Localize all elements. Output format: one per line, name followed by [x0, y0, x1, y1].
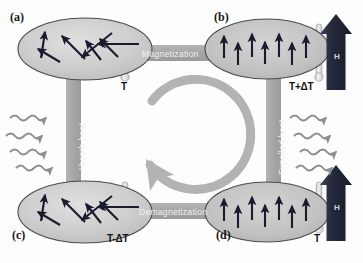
band-label-expelled-heat: Expelled heat [277, 120, 287, 175]
diagram-svg [0, 0, 363, 263]
heat-wave-absorb-group [6, 116, 52, 171]
heat-wave-expelled-group [290, 116, 336, 171]
temperature-label-panel-b: T+ΔT [289, 81, 313, 92]
band-label-magnetization: Magnetization [142, 49, 199, 59]
panel-d-label: (d) [216, 228, 231, 243]
panel-b-label: (b) [214, 10, 229, 25]
band-label-demagnetization: Demagnetization [139, 207, 207, 217]
field-label-panel-b: H [334, 52, 340, 61]
field-label-panel-d: H [334, 203, 340, 212]
figure-canvas: (a) (b) (c) (d) T T+ΔT T-ΔT T Magnetizat… [0, 0, 363, 263]
panel-a-label: (a) [10, 10, 24, 25]
clockwise-cycle-arrow [150, 79, 251, 189]
cycle-arrow-group [150, 79, 251, 189]
panel-c-label: (c) [12, 228, 25, 243]
band-label-absorb-heat: Absorb heat [77, 123, 87, 172]
temperature-label-panel-a: T [121, 81, 127, 92]
temperature-label-panel-d: T [314, 233, 320, 244]
temperature-label-panel-c: T-ΔT [107, 233, 128, 244]
